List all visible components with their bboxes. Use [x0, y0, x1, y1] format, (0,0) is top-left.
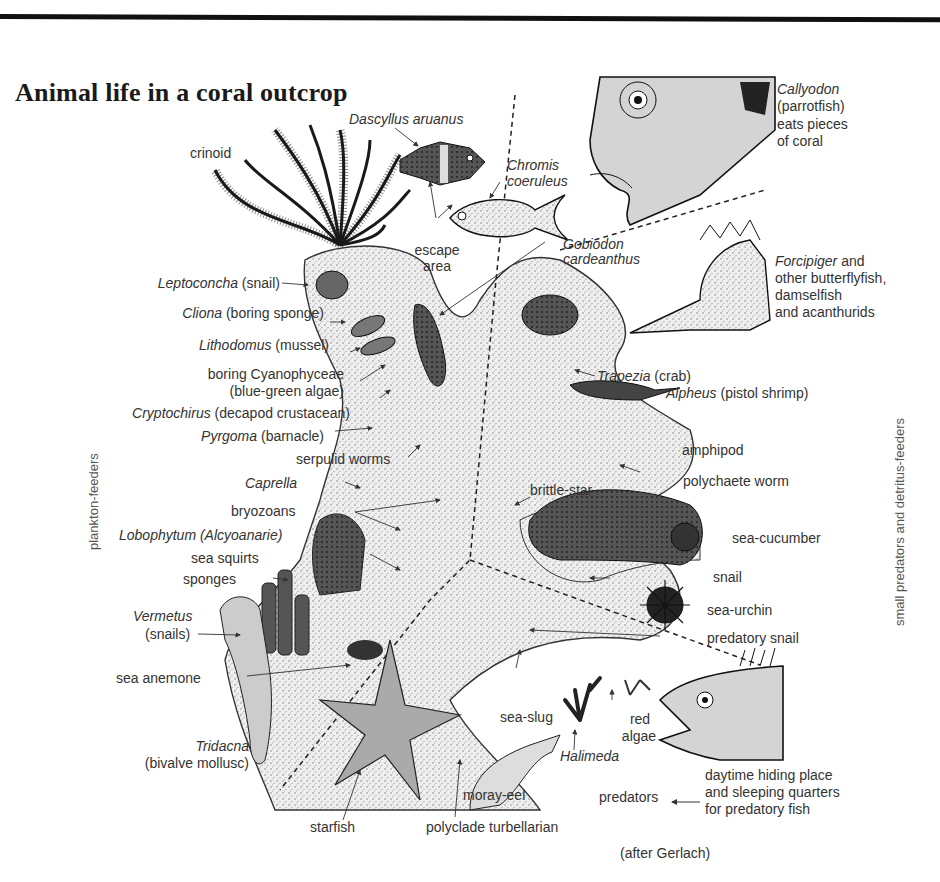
label-vermetus-2: (snails): [145, 626, 190, 642]
label-forcipiger-4: and acanthurids: [775, 304, 875, 320]
grouper-fish-drawing: [660, 648, 783, 760]
credit-text: (after Gerlach): [620, 845, 710, 861]
label-forcipiger-3: damselfish: [775, 287, 842, 303]
label-sea-slug: sea-slug: [500, 709, 553, 725]
label-trapezia: Trapezia (crab): [597, 368, 691, 384]
label-tridacna-2: (bivalve mollusc): [145, 755, 249, 771]
label-starfish: starfish: [310, 819, 355, 835]
label-dascyllus: Dascyllus aruanus: [349, 111, 463, 127]
label-amphipod: amphipod: [682, 442, 744, 458]
label-sponges: sponges: [183, 571, 236, 587]
label-caprella: Caprella: [245, 475, 297, 491]
label-bryozoans: bryozoans: [231, 503, 296, 519]
label-chromis-2: coeruleus: [507, 173, 568, 189]
label-brittle-star: brittle-star: [530, 482, 592, 498]
label-predators: predators: [599, 789, 658, 805]
label-moray-eel: moray-eel: [463, 787, 525, 803]
side-label-plankton-feeders: plankton-feeders: [86, 453, 101, 550]
sea-urchin-drawing: [640, 580, 690, 630]
label-escape: escape: [412, 242, 462, 258]
label-callyodon: Callyodon: [777, 81, 839, 97]
butterflyfish-drawing: [630, 220, 770, 333]
crab-drawing: [522, 295, 578, 335]
label-lobophytum: Lobophytum (Alcyoanarie): [119, 527, 282, 543]
label-leptoconcha: Leptoconcha (snail): [158, 275, 280, 291]
label-sea-cucumber: sea-cucumber: [732, 530, 821, 546]
label-forcipiger-2: other butterflyfish,: [775, 270, 886, 286]
label-alpheus: Alpheus (pistol shrimp): [666, 385, 808, 401]
parrotfish-drawing: [590, 77, 775, 225]
label-daytime-3: for predatory fish: [705, 801, 810, 817]
label-lithodomus: Lithodomus (mussel): [199, 337, 329, 353]
label-cryptochirus: Cryptochirus (decapod crustacean): [132, 405, 350, 421]
halimeda-drawing: [565, 678, 600, 720]
label-red-algae-2: algae: [614, 728, 664, 744]
label-pyrgoma: Pyrgoma (barnacle): [201, 428, 324, 444]
label-callyodon-4: of coral: [777, 133, 823, 149]
sea-anemone-drawing: [347, 640, 383, 660]
label-daytime-2: and sleeping quarters: [705, 784, 840, 800]
label-chromis: Chromis: [507, 157, 559, 173]
side-label-small-predators: small predators and detritus-feeders: [892, 418, 907, 626]
label-daytime: daytime hiding place: [705, 767, 833, 783]
label-polyclade: polyclade turbellarian: [426, 819, 558, 835]
label-vermetus: Vermetus: [133, 608, 192, 624]
label-predatory-snail: predatory snail: [707, 630, 799, 646]
label-escape-2: area: [412, 258, 462, 274]
label-snail: snail: [713, 569, 742, 585]
label-cliona: Cliona (boring sponge): [182, 305, 324, 321]
label-tridacna: Tridacna: [196, 738, 249, 754]
chromis-fish-drawing: [450, 195, 568, 240]
label-callyodon-3: eats pieces: [777, 116, 848, 132]
label-red-algae: red: [620, 711, 660, 727]
label-crinoid: crinoid: [190, 145, 231, 161]
red-algae-drawing: [625, 680, 650, 695]
label-forcipiger: Forcipiger and: [775, 253, 865, 269]
lobophytum-drawing: [313, 514, 366, 595]
label-sea-urchin: sea-urchin: [707, 602, 772, 618]
label-halimeda: Halimeda: [560, 748, 619, 764]
label-sea-squirts: sea squirts: [191, 550, 259, 566]
label-callyodon-2: (parrotfish): [777, 98, 845, 114]
label-polychaete: polychaete worm: [683, 473, 789, 489]
dascyllus-fish-drawing: [400, 142, 485, 185]
label-gobiodon: Gobiodon: [563, 236, 624, 252]
label-sea-anemone: sea anemone: [116, 670, 201, 686]
label-cyanophyceae-2: (blue-green algae): [230, 383, 344, 399]
label-cyanophyceae: boring Cyanophyceae: [208, 366, 344, 382]
label-serpulid: serpulid worms: [296, 451, 390, 467]
label-gobiodon-2: cardeanthus: [563, 251, 640, 267]
